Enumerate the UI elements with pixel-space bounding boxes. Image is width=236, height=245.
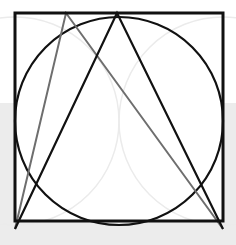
geometry-diagram <box>0 0 236 245</box>
